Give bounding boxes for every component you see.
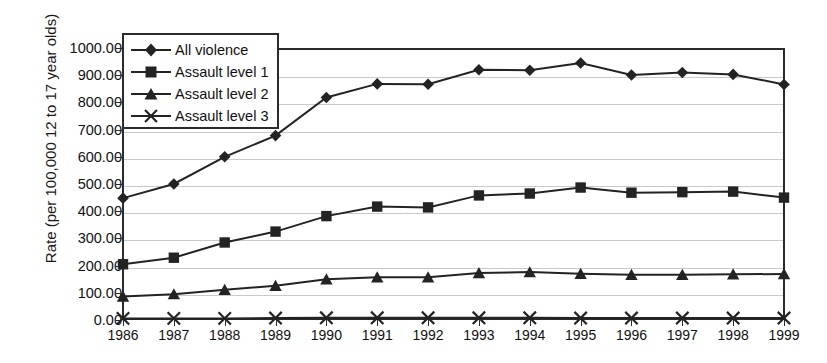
x-axis-tick-mark bbox=[428, 320, 429, 326]
gridline bbox=[124, 240, 783, 241]
gridline bbox=[124, 213, 783, 214]
legend-item-assault-level-3: Assault level 3 bbox=[124, 105, 277, 127]
x-axis-tick-mark bbox=[123, 320, 124, 326]
legend-label: Assault level 2 bbox=[175, 86, 269, 102]
chart-legend: All violence Assault level 1 Assault lev… bbox=[122, 33, 279, 129]
gridline bbox=[124, 186, 783, 187]
legend-key-square-icon bbox=[129, 63, 173, 81]
y-axis-tick-label: 200.00 bbox=[44, 258, 122, 274]
x-axis-tick-mark bbox=[581, 320, 582, 326]
x-axis-tick-label: 1999 bbox=[754, 327, 814, 343]
x-axis-tick-mark bbox=[784, 320, 785, 326]
y-axis-tick-label: 400.00 bbox=[44, 203, 122, 219]
y-axis-tick-label: 900.00 bbox=[44, 67, 122, 83]
y-axis-tick-label: 300.00 bbox=[44, 230, 122, 246]
y-axis-tick-label: 1000.00 bbox=[44, 40, 122, 56]
gridline bbox=[124, 132, 783, 133]
x-axis-tick-mark bbox=[530, 320, 531, 326]
x-axis-tick-mark bbox=[276, 320, 277, 326]
legend-key-cross-icon bbox=[129, 107, 173, 125]
x-axis-tick-mark bbox=[174, 320, 175, 326]
gridline bbox=[124, 159, 783, 160]
legend-key-triangle-icon bbox=[129, 85, 173, 103]
y-axis-tick-label: 700.00 bbox=[44, 122, 122, 138]
x-axis-tick-mark bbox=[631, 320, 632, 326]
legend-label: Assault level 1 bbox=[175, 64, 269, 80]
y-axis-tick-label: 0.00 bbox=[44, 312, 122, 328]
chart-figure: Rate (per 100,000 12 to 17 year olds) 0.… bbox=[0, 0, 827, 363]
y-axis-tick-mark bbox=[116, 320, 122, 321]
y-axis-tick-label: 600.00 bbox=[44, 149, 122, 165]
y-axis-tick-label: 500.00 bbox=[44, 176, 122, 192]
gridline bbox=[124, 268, 783, 269]
x-axis-tick-mark bbox=[326, 320, 327, 326]
legend-key-diamond-icon bbox=[129, 41, 173, 59]
legend-item-assault-level-1: Assault level 1 bbox=[124, 61, 277, 83]
gridline bbox=[124, 295, 783, 296]
legend-label: Assault level 3 bbox=[175, 108, 269, 124]
legend-item-all-violence: All violence bbox=[124, 39, 277, 61]
x-axis-tick-mark bbox=[733, 320, 734, 326]
x-axis-tick-mark bbox=[682, 320, 683, 326]
x-axis-tick-mark bbox=[479, 320, 480, 326]
legend-item-assault-level-2: Assault level 2 bbox=[124, 83, 277, 105]
x-axis-tick-mark bbox=[225, 320, 226, 326]
x-axis-tick-mark bbox=[377, 320, 378, 326]
y-axis: 0.00100.00200.00300.00400.00500.00600.00… bbox=[36, 0, 122, 363]
y-axis-tick-label: 100.00 bbox=[44, 285, 122, 301]
y-axis-tick-label: 800.00 bbox=[44, 94, 122, 110]
legend-label: All violence bbox=[175, 42, 248, 58]
